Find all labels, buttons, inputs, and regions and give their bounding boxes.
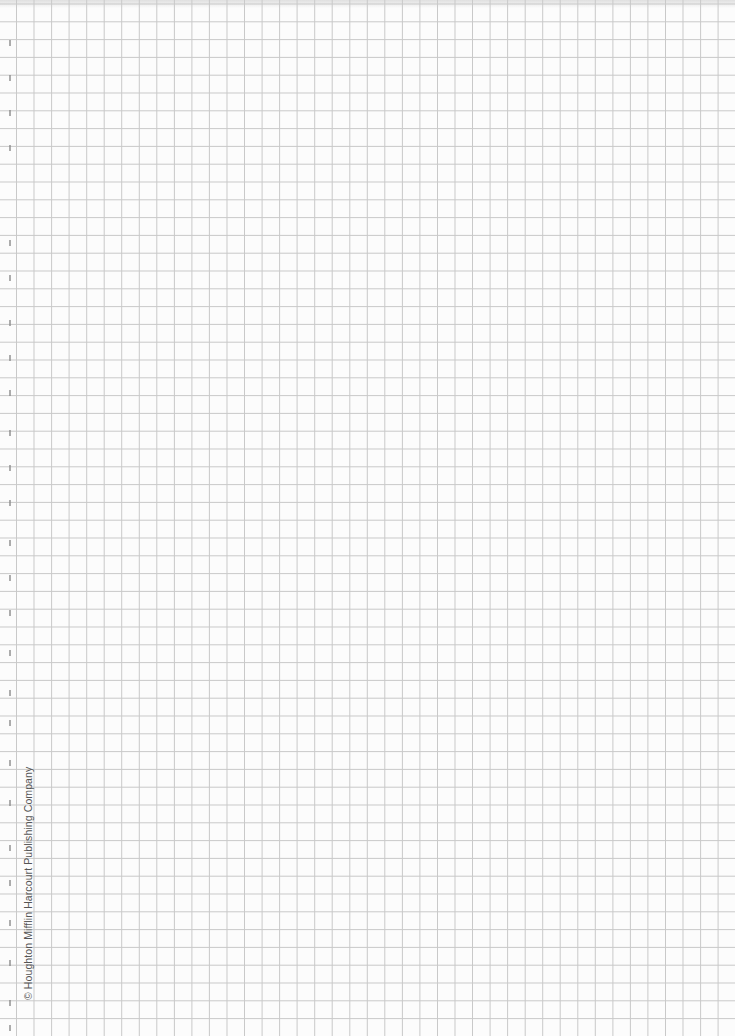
margin-mark [9,650,11,656]
margin-mark [9,800,11,806]
margin-mark [9,920,11,926]
margin-mark [9,500,11,506]
margin-mark [9,355,11,361]
margin-mark [9,540,11,546]
margin-mark [9,1000,11,1006]
grid-lines [0,0,735,1036]
margin-mark [9,465,11,471]
margin-mark [9,275,11,281]
margin-mark [9,720,11,726]
margin-mark [9,845,11,851]
margin-mark [9,1025,11,1031]
left-margin-marks [0,0,20,1036]
graph-paper-page: © Houghton Mifflin Harcourt Publishing C… [0,0,735,1036]
margin-mark [9,880,11,886]
margin-mark [9,610,11,616]
copyright-notice: © Houghton Mifflin Harcourt Publishing C… [22,767,34,1000]
margin-mark [9,240,11,246]
margin-mark [9,390,11,396]
margin-mark [9,430,11,436]
margin-mark [9,75,11,81]
margin-mark [9,320,11,326]
margin-mark [9,40,11,46]
margin-mark [9,145,11,151]
margin-mark [9,960,11,966]
margin-mark [9,760,11,766]
margin-mark [9,575,11,581]
margin-mark [9,110,11,116]
margin-mark [9,690,11,696]
